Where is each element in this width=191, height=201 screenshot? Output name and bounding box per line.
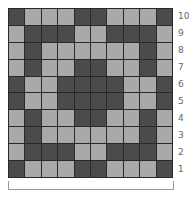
grid-cell-6-10 [157, 77, 172, 93]
grid-cell-2-7 [107, 144, 122, 160]
grid-cell-6-6 [91, 77, 106, 93]
grid-cell-6-7 [107, 77, 122, 93]
grid-cell-1-1 [9, 161, 24, 177]
grid-cell-7-5 [75, 60, 90, 76]
grid-cell-7-7 [107, 60, 122, 76]
row-label: 6 [178, 76, 191, 93]
grid-cell-9-9 [140, 26, 155, 42]
grid-cell-8-6 [91, 43, 106, 59]
grid-cell-2-1 [9, 144, 24, 160]
grid-cell-8-4 [58, 43, 73, 59]
grid-cell-7-3 [42, 60, 57, 76]
grid-cell-6-3 [42, 77, 57, 93]
grid-cell-7-1 [9, 60, 24, 76]
grid-cell-4-5 [75, 110, 90, 126]
grid-cell-4-6 [91, 110, 106, 126]
grid-cell-2-6 [91, 144, 106, 160]
grid-cell-2-5 [75, 144, 90, 160]
grid-cell-3-6 [91, 127, 106, 143]
grid-cell-6-9 [140, 77, 155, 93]
row-label: 10 [178, 8, 191, 25]
row-label: 3 [178, 127, 191, 144]
grid-cell-6-2 [25, 77, 40, 93]
grid-cell-4-7 [107, 110, 122, 126]
row-label: 8 [178, 42, 191, 59]
grid-cell-5-8 [124, 93, 139, 109]
grid-cell-5-2 [25, 93, 40, 109]
grid-cell-1-2 [25, 161, 40, 177]
grid-cell-8-7 [107, 43, 122, 59]
grid-cell-1-5 [75, 161, 90, 177]
grid-cell-5-7 [107, 93, 122, 109]
row-label: 5 [178, 93, 191, 110]
grid-cell-4-2 [25, 110, 40, 126]
grid-cell-4-1 [9, 110, 24, 126]
row-label: 2 [178, 144, 191, 161]
grid-cell-10-1 [9, 9, 24, 25]
grid-cell-8-1 [9, 43, 24, 59]
grid-cell-7-4 [58, 60, 73, 76]
grid-cell-8-10 [157, 43, 172, 59]
grid-cell-7-10 [157, 60, 172, 76]
grid-cell-7-8 [124, 60, 139, 76]
grid-cell-6-8 [124, 77, 139, 93]
grid-cell-8-9 [140, 43, 155, 59]
grid-cell-3-5 [75, 127, 90, 143]
grid-cell-8-2 [25, 43, 40, 59]
grid-cell-7-2 [25, 60, 40, 76]
grid-cell-3-9 [140, 127, 155, 143]
grid-cell-7-9 [140, 60, 155, 76]
grid-cell-9-2 [25, 26, 40, 42]
grid-cell-10-7 [107, 9, 122, 25]
grid-cell-10-2 [25, 9, 40, 25]
grid-cell-1-6 [91, 161, 106, 177]
grid-cell-4-4 [58, 110, 73, 126]
grid-cell-5-10 [157, 93, 172, 109]
grid-cell-3-7 [107, 127, 122, 143]
grid-cell-10-10 [157, 9, 172, 25]
grid-cell-2-8 [124, 144, 139, 160]
grid-cell-9-5 [75, 26, 90, 42]
grid-cell-10-8 [124, 9, 139, 25]
grid-cell-6-1 [9, 77, 24, 93]
grid-cell-8-8 [124, 43, 139, 59]
grid-cell-1-9 [140, 161, 155, 177]
grid-cell-3-10 [157, 127, 172, 143]
grid-cell-4-10 [157, 110, 172, 126]
grid-cell-1-10 [157, 161, 172, 177]
grid-cell-3-8 [124, 127, 139, 143]
pattern-grid [8, 8, 173, 178]
grid-cell-10-9 [140, 9, 155, 25]
grid-cell-1-7 [107, 161, 122, 177]
grid-cell-5-9 [140, 93, 155, 109]
grid-cell-10-4 [58, 9, 73, 25]
grid-cell-9-3 [42, 26, 57, 42]
grid-cell-4-9 [140, 110, 155, 126]
grid-cell-2-2 [25, 144, 40, 160]
grid-cell-5-5 [75, 93, 90, 109]
grid-cell-1-8 [124, 161, 139, 177]
grid-cell-9-7 [107, 26, 122, 42]
grid-cell-8-3 [42, 43, 57, 59]
grid-cell-9-6 [91, 26, 106, 42]
grid-cell-6-5 [75, 77, 90, 93]
grid-cell-3-2 [25, 127, 40, 143]
grid-cell-5-6 [91, 93, 106, 109]
grid-cell-1-3 [42, 161, 57, 177]
row-label: 7 [178, 59, 191, 76]
grid-cell-9-1 [9, 26, 24, 42]
grid-cell-6-4 [58, 77, 73, 93]
row-label: 4 [178, 110, 191, 127]
grid-cell-10-6 [91, 9, 106, 25]
row-label: 9 [178, 25, 191, 42]
grid-cell-5-1 [9, 93, 24, 109]
grid-cell-1-4 [58, 161, 73, 177]
row-number-labels: 10987654321 [178, 8, 191, 178]
grid-cell-4-8 [124, 110, 139, 126]
grid-cell-7-6 [91, 60, 106, 76]
grid-cell-3-1 [9, 127, 24, 143]
grid-cell-2-10 [157, 144, 172, 160]
grid-cell-4-3 [42, 110, 57, 126]
grid-cell-10-3 [42, 9, 57, 25]
grid-cell-8-5 [75, 43, 90, 59]
